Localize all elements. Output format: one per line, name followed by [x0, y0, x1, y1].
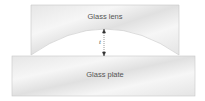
glass-plate-label: Glass plate — [70, 70, 140, 79]
glass-lens-label: Glass lens — [70, 12, 140, 21]
gap-label: t — [96, 38, 104, 46]
